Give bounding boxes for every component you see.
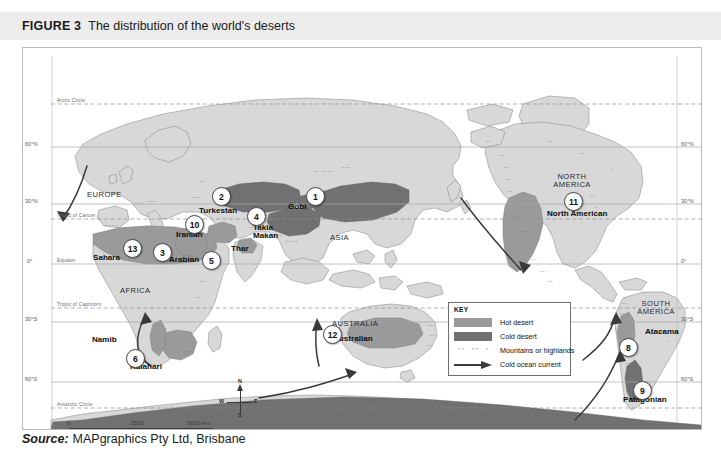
lat-label-right-30n: 30°N — [681, 199, 694, 205]
svg-text:⌃⌃: ⌃⌃ — [619, 332, 625, 337]
svg-text:⌃⌃: ⌃⌃ — [199, 180, 205, 185]
desert-label-atacama: Atacama — [645, 328, 679, 336]
svg-text:⌃⌃: ⌃⌃ — [485, 140, 491, 145]
desert-label-takla-makan: TaklaMakan — [253, 224, 295, 241]
figure-label: FIGURE 3 — [22, 19, 81, 33]
svg-text:⌃⌃: ⌃⌃ — [547, 140, 553, 145]
key-title: KEY — [454, 306, 468, 313]
desert-marker-2[interactable]: 2 — [212, 187, 231, 206]
svg-text:⌃⌃: ⌃⌃ — [547, 280, 553, 285]
svg-text:⌃⌃: ⌃⌃ — [627, 372, 633, 377]
source-line: Source:MAPgraphics Pty Ltd, Brisbane — [22, 432, 246, 446]
key-item-cold-current: Cold ocean current — [454, 359, 561, 370]
lat-label-left-0: 0° — [27, 259, 32, 265]
svg-text:⌃⌃: ⌃⌃ — [531, 258, 537, 263]
desert-marker-8[interactable]: 8 — [619, 338, 638, 357]
key-label-cold-current: Cold ocean current — [500, 360, 561, 369]
figure-title: The distribution of the world's deserts — [88, 19, 295, 33]
source-label: Source: — [22, 432, 69, 446]
compass-rose: N W E S — [219, 382, 261, 418]
key-item-hot-desert: Hot desert — [454, 317, 533, 328]
scale-segment-light — [70, 429, 141, 430]
lat-label-left-60n: 60°N — [25, 142, 38, 148]
svg-text:⌃⌃: ⌃⌃ — [511, 202, 517, 207]
cold-current-arrow-icon — [454, 360, 492, 369]
svg-text:⌃⌃: ⌃⌃ — [427, 344, 433, 349]
desert-label-sahara: Sahara — [93, 254, 120, 262]
figure-header: FIGURE 3 The distribution of the world's… — [0, 12, 721, 40]
scale-numbers: 0 2500 5000 km — [69, 419, 213, 428]
map-key: KEY Hot desert Cold desert ⌃⌃⌃⌃⌃ Mountai… — [448, 302, 571, 376]
map-frame: ⌃⌃ ⌃⌃ ⌃⌃⌃ ⌃⌃ ⌃⌃ ⌃ ⌃⌃ ⌃⌃⌃ ⌃⌃⌃ ⌃⌃⌃ ⌃⌃ ⌃⌃ ⌃… — [22, 47, 702, 430]
desert-marker-12[interactable]: 12 — [323, 325, 342, 344]
lat-label-right-0: 0° — [681, 259, 686, 265]
line-label-tropic-of-capricorn: Tropic of Capricorn — [57, 302, 101, 307]
compass-label-west: W — [219, 398, 224, 404]
mountains-symbol-icon: ⌃⌃⌃⌃⌃ — [454, 346, 492, 355]
lat-label-left-30n: 30°N — [25, 199, 38, 205]
svg-text:⌃⌃: ⌃⌃ — [499, 154, 505, 159]
svg-text:⌃: ⌃ — [611, 168, 614, 173]
svg-text:⌃: ⌃ — [667, 340, 670, 345]
svg-text:⌃⌃ ⌃⌃ ⌃⌃: ⌃⌃ ⌃⌃ ⌃⌃ — [313, 170, 333, 175]
lat-label-right-60n: 60°N — [681, 142, 694, 148]
key-label-hot-desert: Hot desert — [500, 318, 533, 327]
compass-horizontal-line — [227, 402, 253, 403]
svg-text:⌃⌃: ⌃⌃ — [505, 178, 511, 183]
scale-tick-2500: 2500 — [130, 419, 144, 426]
continent-label-north-america: NORTHAMERICA — [542, 173, 602, 189]
scale-segment-dark — [141, 429, 212, 430]
svg-text:⌃⌃: ⌃⌃ — [199, 280, 205, 285]
svg-text:⌃⌃: ⌃⌃ — [519, 230, 525, 235]
continent-label-africa: AFRICA — [120, 287, 151, 295]
desert-marker-3[interactable]: 3 — [153, 243, 172, 262]
line-label-arctic-circle: Arctic Circle — [57, 98, 85, 103]
desert-marker-1[interactable]: 1 — [306, 187, 325, 206]
key-label-cold-desert: Cold desert — [500, 332, 537, 341]
lat-label-left-30s: 30°S — [25, 317, 37, 323]
svg-text:⌃⌃ ⌃⌃ ⌃: ⌃⌃ ⌃⌃ ⌃ — [101, 224, 118, 229]
compass-north-arrowhead — [237, 384, 243, 391]
desert-label-namib: Namib — [92, 336, 117, 344]
world-map-svg: ⌃⌃ ⌃⌃ ⌃⌃⌃ ⌃⌃ ⌃⌃ ⌃ ⌃⌃ ⌃⌃⌃ ⌃⌃⌃ ⌃⌃⌃ ⌃⌃ ⌃⌃ ⌃… — [23, 48, 701, 429]
line-label-tropic-of-cancer: Tropic of Cancer — [57, 213, 95, 218]
desert-marker-4[interactable]: 4 — [247, 207, 266, 226]
desert-label-north-american: North American — [547, 210, 607, 218]
continent-label-asia: ASIA — [330, 234, 349, 242]
scale-tick-0: 0 — [67, 419, 70, 426]
svg-text:⌃⌃ ⌃⌃: ⌃⌃ ⌃⌃ — [131, 202, 144, 207]
svg-text:⌃⌃: ⌃⌃ — [427, 324, 433, 329]
key-item-mountains: ⌃⌃⌃⌃⌃ Mountains or highlands — [454, 345, 574, 356]
desert-marker-5[interactable]: 5 — [202, 251, 221, 270]
line-label-equator: Equator — [57, 258, 75, 263]
key-item-cold-desert: Cold desert — [454, 331, 537, 342]
continent-label-europe: EUROPE — [87, 191, 122, 199]
svg-text:⌃⌃: ⌃⌃ — [525, 244, 531, 249]
svg-text:⌃⌃: ⌃⌃ — [539, 270, 545, 275]
scale-tick-5000: 5000 km — [187, 419, 211, 426]
desert-marker-10[interactable]: 10 — [185, 215, 204, 234]
desert-label-arabian: Arabian — [169, 256, 199, 264]
compass-label-north: N — [238, 378, 242, 384]
desert-marker-11[interactable]: 11 — [564, 192, 583, 211]
svg-text:⌃⌃: ⌃⌃ — [503, 166, 509, 171]
source-value: MAPgraphics Pty Ltd, Brisbane — [73, 432, 246, 446]
cold-desert-swatch-icon — [454, 332, 492, 341]
svg-text:⌃⌃: ⌃⌃ — [625, 362, 631, 367]
desert-marker-13[interactable]: 13 — [123, 239, 142, 258]
svg-text:⌃⌃: ⌃⌃ — [195, 296, 201, 301]
hot-desert-swatch-icon — [454, 318, 492, 327]
scale-bar: 0 2500 5000 km — [69, 419, 213, 430]
key-label-mountains: Mountains or highlands — [500, 346, 574, 355]
svg-text:⌃⌃: ⌃⌃ — [507, 190, 513, 195]
desert-marker-9[interactable]: 9 — [633, 381, 652, 400]
lat-label-right-30s: 30°S — [681, 317, 693, 323]
scale-bar-graphic — [69, 428, 213, 430]
desert-label-turkestan: Turkestan — [199, 207, 237, 215]
svg-text:⌃⌃: ⌃⌃ — [183, 350, 189, 355]
svg-text:⌃⌃: ⌃⌃ — [429, 334, 435, 339]
desert-marker-6[interactable]: 6 — [126, 349, 145, 368]
svg-text:⌃⌃: ⌃⌃ — [589, 194, 595, 199]
figure-root: FIGURE 3 The distribution of the world's… — [0, 0, 721, 455]
svg-text:⌃⌃: ⌃⌃ — [579, 152, 585, 157]
